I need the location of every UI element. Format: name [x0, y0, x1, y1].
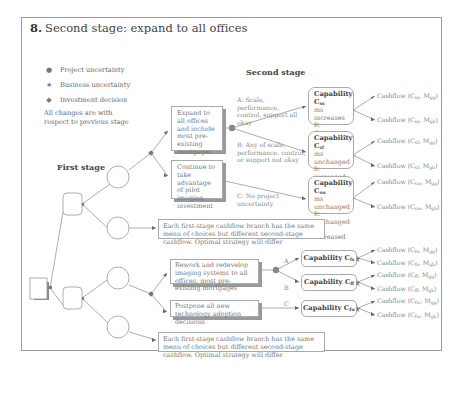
capability-box-ff[interactable]: Capability Cff	[301, 274, 357, 291]
capability-detail: ms unchanged	[314, 196, 348, 211]
option-expand-all-offices[interactable]: Expand to all offices and include most p…	[171, 106, 223, 151]
cashflow-ff-gb: Cashflow (Cff, Mgb)	[377, 285, 437, 293]
cashflow-fw-gg: Cashflow (Cfw, Mgg)	[377, 297, 439, 305]
cashflow-sf-gg: Cashflow (Csf, Mgg)	[377, 137, 437, 145]
capability-detail: ms increases	[314, 107, 348, 122]
option-rework-redevelop[interactable]: Rework and redevelop imaging systems to …	[170, 259, 259, 284]
menu-note-lower: Each first-stage cashflow branch has the…	[158, 332, 325, 352]
capability-box-fs[interactable]: Capability Cfs	[301, 250, 357, 267]
capability-box-sw[interactable]: Capability Csw ms unchanged fc unchanged…	[308, 176, 354, 214]
capability-detail: ms unchanged	[314, 151, 348, 166]
cashflow-sw-gg: Cashflow (Csw, Mgg)	[377, 178, 440, 186]
option-continue-pilot[interactable]: Continue to take advantage of pilot imag…	[171, 160, 223, 199]
branch-label-a: A: Scale, performance, control, support …	[237, 96, 305, 126]
cashflow-ss-gb: Cashflow (Css, Mgb)	[377, 116, 438, 124]
menu-note-upper: Each first-stage cashflow branch has the…	[158, 219, 325, 239]
capability-title: Capability Css	[314, 91, 348, 107]
cashflow-fw-gb: Cashflow (Cfw, Mgb)	[377, 311, 439, 319]
branch-label-b-lower: B	[284, 284, 289, 292]
capability-title: Capability Csf	[314, 135, 348, 151]
cashflow-ss-gg: Cashflow (Css, Mgg)	[377, 92, 438, 100]
capability-title: Capability Csw	[314, 180, 348, 196]
capability-box-ss[interactable]: Capability Css ms increases fc decreases…	[308, 87, 354, 125]
capability-box-fw[interactable]: Capability Cfw	[301, 300, 357, 317]
cashflow-fs-gg: Cashflow (Cfs, Mgg)	[377, 246, 437, 254]
branch-label-b: B: Any of scale, performance, control, o…	[237, 141, 307, 164]
branch-label-c-lower: C	[284, 300, 289, 308]
branch-label-c: C: No project uncertainty	[237, 192, 287, 207]
cashflow-sw-gb: Cashflow (Csw, Mgb)	[377, 203, 440, 211]
option-postpone-adoption[interactable]: Postpone all new technology adoption dec…	[170, 300, 259, 317]
capability-box-sf[interactable]: Capability Csf ms unchanged fc increased…	[308, 131, 354, 169]
cashflow-sf-gb: Cashflow (Csf, Mgb)	[377, 162, 437, 170]
cashflow-fs-gb: Cashflow (Cfs, Mgb)	[377, 259, 437, 267]
branch-label-a-lower: A	[284, 257, 288, 265]
cashflow-ff-gg: Cashflow (Cff, Mgg)	[377, 271, 437, 279]
